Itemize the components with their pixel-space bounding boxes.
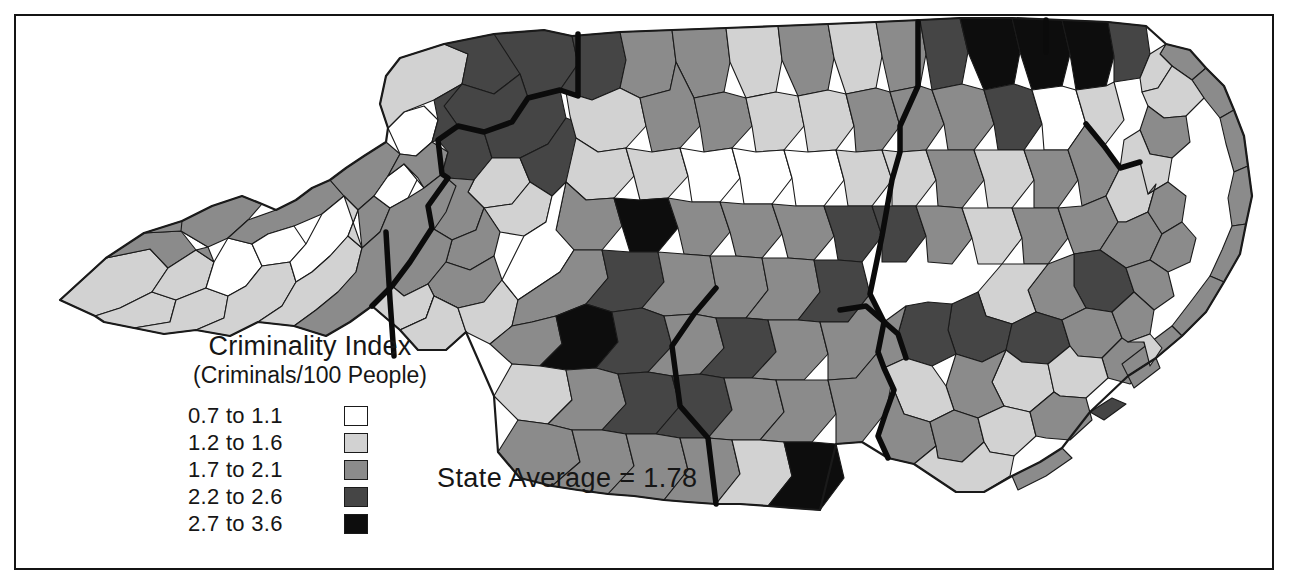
legend-class-label: 0.7 to 1.1	[188, 403, 340, 429]
county	[798, 90, 854, 152]
county	[620, 30, 676, 98]
map-legend: Criminality Index (Criminals/100 People)…	[150, 331, 470, 539]
legend-row: 0.7 to 1.1	[188, 404, 470, 428]
county	[614, 198, 678, 252]
map-figure: Criminality Index (Criminals/100 People)…	[0, 0, 1290, 586]
county	[772, 204, 834, 260]
county	[1172, 276, 1224, 336]
legend-class-label: 1.7 to 2.1	[188, 457, 340, 483]
county	[1062, 20, 1114, 90]
county	[726, 26, 782, 98]
legend-row: 1.2 to 1.6	[188, 431, 470, 455]
county	[836, 150, 892, 206]
county	[784, 150, 844, 206]
county	[732, 148, 792, 204]
legend-row: 1.7 to 2.1	[188, 458, 470, 482]
county	[680, 148, 740, 202]
legend-class-swatch	[344, 514, 368, 534]
legend-class-label: 2.2 to 2.6	[188, 484, 340, 510]
legend-subtitle: (Criminals/100 People)	[150, 362, 470, 388]
county	[746, 92, 804, 152]
county	[720, 202, 782, 258]
county	[828, 22, 882, 94]
legend-class-swatch	[344, 406, 368, 426]
county	[920, 18, 968, 90]
state-average-annotation: State Average = 1.78	[437, 463, 697, 494]
county	[1012, 448, 1072, 490]
legend-class-swatch	[344, 433, 368, 453]
legend-class-label: 1.2 to 1.6	[188, 430, 340, 456]
county	[626, 148, 688, 200]
county	[668, 198, 730, 256]
county	[778, 24, 834, 96]
county	[1090, 398, 1126, 420]
county	[1012, 18, 1070, 90]
county	[960, 18, 1020, 90]
legend-row: 2.2 to 2.6	[188, 485, 470, 509]
legend-class-swatch	[344, 460, 368, 480]
legend-row: 2.7 to 3.6	[188, 512, 470, 536]
legend-class-list: 0.7 to 1.1 1.2 to 1.6 1.7 to 2.1 2.2 to …	[150, 404, 470, 536]
county	[694, 92, 752, 152]
legend-class-label: 2.7 to 3.6	[188, 511, 340, 537]
county	[962, 208, 1022, 264]
legend-class-swatch	[344, 487, 368, 507]
legend-title: Criminality Index	[150, 331, 470, 361]
